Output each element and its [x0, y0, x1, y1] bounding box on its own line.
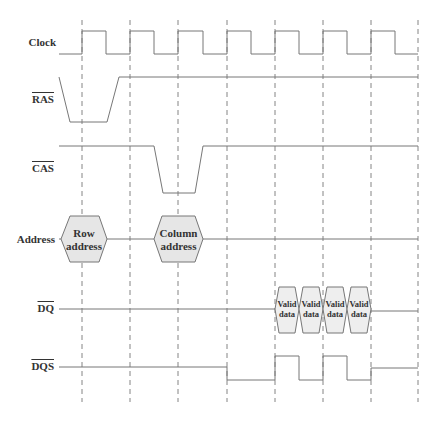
signal-label-ras: RAS: [0, 93, 54, 105]
dqs-waveform: [59, 356, 418, 380]
column-address-line2: address: [155, 240, 202, 253]
clock-waveform: [59, 31, 418, 54]
address-bus: [59, 216, 418, 262]
row-address-line1: Row: [62, 227, 106, 240]
timing-diagram-canvas: [0, 0, 440, 425]
column-address-line1: Column: [155, 227, 202, 240]
valid-data-3-line2: data: [323, 310, 347, 320]
valid-data-label-2: Valid data: [299, 300, 323, 320]
valid-data-label-3: Valid data: [323, 300, 347, 320]
row-address-line2: address: [62, 240, 106, 253]
ras-waveform: [59, 77, 418, 122]
cas-waveform: [59, 146, 418, 193]
signal-label-dqs: DQS: [0, 360, 54, 372]
signal-label-dq: DQ: [0, 302, 54, 314]
valid-data-1-line2: data: [275, 310, 299, 320]
row-address-label: Row address: [62, 227, 106, 252]
signal-label-cas: CAS: [0, 162, 54, 174]
valid-data-label-1: Valid data: [275, 300, 299, 320]
valid-data-2-line2: data: [299, 310, 323, 320]
signal-label-clock: Clock: [0, 36, 56, 48]
valid-data-4-line2: data: [347, 310, 371, 320]
valid-data-label-4: Valid data: [347, 300, 371, 320]
signal-label-address: Address: [0, 233, 55, 245]
column-address-label: Column address: [155, 227, 202, 252]
timing-diagram: Clock RAS CAS Address DQ DQS Row address…: [0, 0, 440, 425]
